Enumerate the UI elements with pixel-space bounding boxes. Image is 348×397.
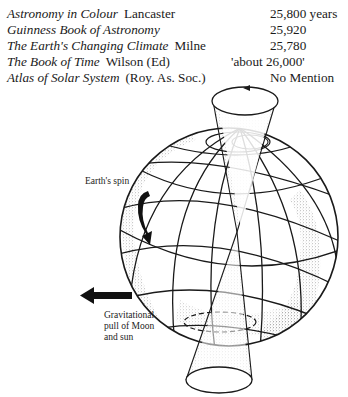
gravity-label-line: and sun — [104, 332, 164, 343]
gravity-label-line: pull of Moon — [104, 321, 164, 332]
gravity-arrow-icon — [80, 287, 132, 304]
earth-spin-label: Earth's spin — [85, 176, 129, 187]
precession-diagram — [0, 0, 348, 397]
gravity-label-line: Gravitational — [104, 310, 164, 321]
gravitational-pull-label: Gravitational pull of Moon and sun — [104, 310, 164, 343]
